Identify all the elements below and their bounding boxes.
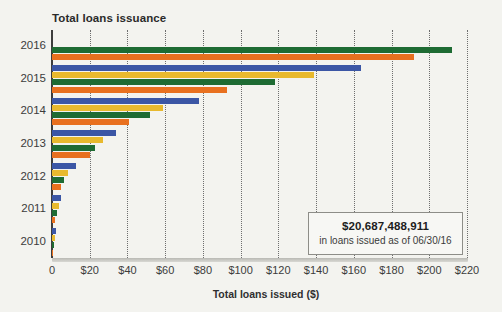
x-tick-label: $80 — [194, 264, 212, 276]
y-tick-label: 2014 — [20, 104, 46, 116]
chart-container: Total loans issuance 2016201520142013201… — [0, 0, 502, 312]
y-tick-label: 2011 — [21, 202, 46, 214]
bar — [52, 79, 275, 85]
y-tick-label: 2010 — [20, 235, 46, 247]
bar — [52, 228, 56, 234]
y-tick-label: 2013 — [20, 137, 46, 149]
bar — [52, 195, 61, 201]
bar — [52, 137, 103, 143]
bar — [52, 72, 314, 78]
bar — [52, 250, 53, 256]
x-tick-label: $220 — [455, 264, 479, 276]
x-axis-tick-labels: 0$20$40$60$80$100$120$140$160$180$200$22… — [52, 264, 482, 282]
bar — [52, 184, 61, 190]
bar — [52, 145, 95, 151]
annotation-callout: $20,687,488,911 in loans issued as of 06… — [308, 212, 463, 255]
bar — [52, 203, 59, 209]
bar — [52, 152, 90, 158]
y-axis-tick-labels: 2016201520142013201220112010 — [0, 30, 46, 258]
chart-title: Total loans issuance — [52, 12, 166, 24]
bar — [52, 54, 414, 60]
annotation-value: $20,687,488,911 — [315, 220, 456, 232]
x-tick-label: $40 — [118, 264, 136, 276]
bar — [52, 47, 452, 53]
x-tick-label: $60 — [156, 264, 174, 276]
bar — [52, 98, 199, 104]
bar — [52, 242, 54, 248]
x-tick-label: $140 — [304, 264, 328, 276]
x-tick-label: $160 — [342, 264, 366, 276]
x-tick-label: $200 — [417, 264, 441, 276]
bar — [52, 235, 55, 241]
y-tick-label: 2012 — [20, 170, 46, 182]
x-tick-label: 0 — [49, 264, 55, 276]
bar — [52, 112, 150, 118]
x-tick-label: $20 — [81, 264, 99, 276]
x-tick-label: $120 — [266, 264, 290, 276]
bar — [52, 170, 68, 176]
bar — [52, 163, 76, 169]
annotation-caption: in loans issued as of 06/30/16 — [315, 235, 456, 246]
bar — [52, 177, 64, 183]
x-tick-label: $180 — [379, 264, 403, 276]
bar — [52, 210, 57, 216]
x-tick-label: $100 — [228, 264, 252, 276]
y-tick-label: 2015 — [20, 72, 46, 84]
bar — [52, 119, 129, 125]
bar — [52, 105, 163, 111]
bar — [52, 87, 227, 93]
bar — [52, 130, 116, 136]
y-tick-label: 2016 — [20, 39, 46, 51]
x-axis-line — [52, 258, 468, 262]
x-axis-title: Total loans issued ($) — [0, 288, 502, 300]
bar — [52, 217, 55, 223]
bar — [52, 65, 361, 71]
gridline — [467, 30, 468, 258]
